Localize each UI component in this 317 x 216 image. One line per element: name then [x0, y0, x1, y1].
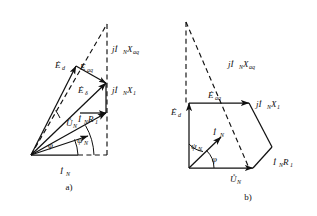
diagram-a: Ė d Ė aq Ė δ jİ N X aq jİ N X 1 Ů N İ [31, 24, 139, 192]
a-caption: a) [66, 182, 73, 192]
svg-text:N: N [236, 179, 242, 185]
a-angle-arc-inner [56, 111, 60, 119]
svg-text:aq: aq [249, 64, 255, 70]
svg-text:ψ: ψ [77, 135, 83, 145]
b-caption: b) [244, 192, 252, 202]
svg-text:İ: İ [77, 114, 82, 124]
svg-text:jİ: jİ [111, 44, 119, 54]
svg-text:aq: aq [133, 49, 139, 55]
b-label-eaq: Ė aq [207, 90, 221, 101]
a-label-in: İ N [59, 166, 71, 177]
svg-text:1: 1 [277, 104, 280, 110]
svg-text:R: R [87, 114, 94, 124]
svg-text:X: X [242, 59, 249, 69]
svg-text:jİ: jİ [227, 59, 235, 69]
svg-text:İ: İ [212, 127, 217, 137]
a-dashed-q-axis [31, 24, 107, 155]
svg-text:ψ: ψ [191, 141, 197, 151]
svg-text:jİ: jİ [255, 99, 263, 109]
svg-text:1: 1 [290, 162, 293, 168]
svg-text:Ė: Ė [77, 85, 84, 95]
svg-text:d: d [178, 112, 182, 118]
svg-text:jİ: jİ [111, 85, 119, 95]
svg-text:δ: δ [85, 90, 88, 96]
a-label-ed: Ė d [54, 60, 66, 71]
svg-text:İ: İ [272, 157, 277, 167]
a-label-jxaq: jİ N X aq [111, 44, 139, 55]
a-label-jx1: jİ N X 1 [111, 85, 136, 96]
phasor-diagram-figure: Ė d Ė aq Ė δ jİ N X aq jİ N X 1 Ů N İ [0, 0, 317, 216]
svg-text:Ů: Ů [230, 174, 237, 184]
svg-text:d: d [62, 65, 66, 71]
svg-text:Ė: Ė [170, 107, 177, 117]
svg-text:N: N [219, 132, 225, 138]
b-label-phi: φ [212, 154, 217, 164]
b-label-in: İ N [212, 127, 225, 138]
a-label-un: Ů N [66, 118, 78, 129]
b-label-ed: Ė d [170, 107, 182, 118]
svg-text:Ė: Ė [79, 62, 86, 72]
svg-text:aq: aq [215, 95, 221, 101]
svg-text:Ů: Ů [66, 118, 73, 128]
figure-canvas: Ė d Ė aq Ė δ jİ N X aq jİ N X 1 Ů N İ [0, 0, 317, 216]
svg-text:X: X [126, 85, 133, 95]
b-vector-inr1 [253, 147, 272, 168]
b-label-jx1: jİ N X 1 [255, 99, 280, 110]
svg-text:X: X [270, 99, 277, 109]
b-label-psin: ψ N [191, 141, 203, 152]
a-label-inr1: İ N R 1 [77, 114, 98, 125]
b-label-jxaq: jİ N X aq [227, 59, 255, 70]
svg-text:X: X [126, 44, 133, 54]
svg-text:1: 1 [95, 119, 98, 125]
diagram-b: jİ N X aq Ė aq Ė d jİ N X 1 İ N R 1 İ N [170, 22, 293, 202]
a-label-phi: φ [48, 140, 53, 150]
svg-text:aq: aq [87, 67, 93, 73]
svg-text:Ė: Ė [207, 90, 214, 100]
svg-text:Ė: Ė [54, 60, 61, 70]
b-label-inr1: İ N R 1 [272, 157, 293, 168]
svg-text:İ: İ [59, 166, 64, 176]
svg-text:N: N [65, 171, 71, 177]
a-label-edelta: Ė δ [77, 85, 88, 96]
b-label-un: Ů N [230, 174, 242, 185]
svg-text:R: R [282, 157, 289, 167]
svg-text:N: N [83, 140, 89, 146]
svg-text:1: 1 [133, 90, 136, 96]
